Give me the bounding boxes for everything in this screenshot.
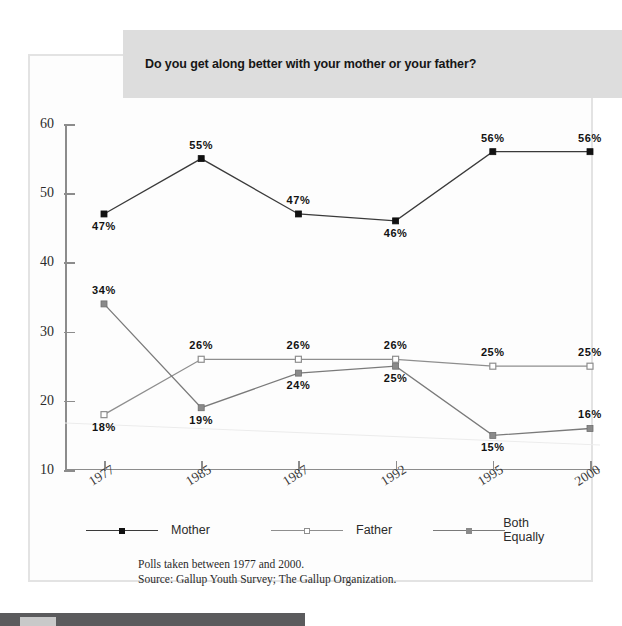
data-point-label: 34% [92, 284, 116, 296]
series-marker [198, 156, 204, 162]
data-point-label: 56% [481, 132, 505, 144]
footnote-line-2: Source: Gallup Youth Survey; The Gallup … [138, 572, 396, 587]
chart-page: Do you get along better with your mother… [0, 0, 622, 626]
page-title: Do you get along better with your mother… [123, 57, 476, 71]
data-point-label: 24% [286, 379, 310, 391]
series-marker [101, 301, 107, 307]
page-footer-chip [20, 617, 56, 626]
legend-swatch [86, 525, 158, 536]
series-marker [393, 218, 399, 224]
legend-marker-filled-square-black [119, 528, 125, 534]
series-marker [490, 363, 496, 369]
title-banner: Do you get along better with your mother… [123, 30, 622, 98]
series-marker [198, 356, 204, 362]
series-marker [101, 211, 107, 217]
legend-swatch [433, 525, 490, 536]
y-tick-label: 20 [40, 393, 54, 409]
series-marker [490, 149, 496, 155]
y-tick-label: 30 [40, 324, 54, 340]
legend-marker-filled-square-gray [466, 528, 472, 534]
data-point-label: 25% [384, 372, 408, 384]
footnote-line-1: Polls taken between 1977 and 2000. [138, 557, 396, 572]
data-point-label: 25% [578, 346, 602, 358]
data-point-label: 55% [189, 139, 213, 151]
data-point-label: 26% [189, 339, 213, 351]
legend-label: Father [356, 523, 392, 537]
legend-marker-open-square [304, 528, 310, 534]
legend-label: Mother [171, 523, 210, 537]
data-point-label: 47% [92, 220, 116, 232]
y-tick-label: 60 [40, 116, 54, 132]
data-point-label: 46% [384, 227, 408, 239]
series-layer [65, 124, 600, 470]
y-tick-label: 10 [40, 462, 54, 478]
series-marker [198, 405, 204, 411]
series-marker [295, 370, 301, 376]
series-marker [490, 432, 496, 438]
data-point-label: 15% [481, 441, 505, 453]
series-line [104, 304, 590, 435]
data-point-label: 16% [578, 408, 602, 420]
series-marker [587, 149, 593, 155]
series-marker [587, 363, 593, 369]
data-point-label: 26% [286, 339, 310, 351]
data-point-label: 25% [481, 346, 505, 358]
y-tick-label: 40 [40, 254, 54, 270]
y-tick [64, 470, 75, 472]
series-marker [101, 412, 107, 418]
data-point-label: 19% [189, 414, 213, 426]
series-marker [295, 356, 301, 362]
data-point-label: 18% [92, 421, 116, 433]
legend-item[interactable]: Mother [86, 519, 210, 541]
data-point-label: 47% [286, 194, 310, 206]
legend-item[interactable]: Father [271, 519, 392, 541]
data-point-label: 26% [384, 339, 408, 351]
chart-legend: MotherFatherBoth Equally [86, 519, 556, 541]
series-marker [587, 425, 593, 431]
series-marker [295, 211, 301, 217]
data-point-label: 56% [578, 132, 602, 144]
series-line [104, 359, 590, 414]
y-tick-label: 50 [40, 185, 54, 201]
legend-swatch [271, 525, 343, 536]
series-line [104, 152, 590, 221]
legend-item[interactable]: Both Equally [433, 519, 559, 541]
footnote: Polls taken between 1977 and 2000. Sourc… [138, 557, 396, 587]
legend-label: Both Equally [503, 516, 559, 544]
plot-area: 102030405060 197719851987199219952000 47… [65, 124, 600, 470]
series-marker [393, 363, 399, 369]
series-marker [393, 356, 399, 362]
